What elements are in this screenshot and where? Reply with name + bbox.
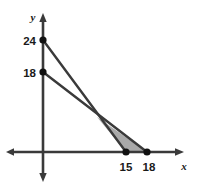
coordinate-plane-svg: 24 18 15 18 y x [0, 0, 202, 183]
x-tick-label-18: 18 [143, 161, 156, 173]
point-x-18 [143, 148, 150, 155]
y-tick-label-18: 18 [23, 67, 36, 79]
point-y-24 [39, 36, 46, 43]
x-axis-label: x [180, 160, 187, 172]
x-axis [6, 148, 184, 155]
x-tick-label-15: 15 [120, 161, 133, 173]
graph-figure: 24 18 15 18 y x [0, 0, 202, 183]
line-segment-2 [43, 72, 147, 152]
y-tick-label-24: 24 [23, 35, 36, 47]
point-x-15 [122, 148, 129, 155]
line-segment-1 [43, 40, 126, 152]
point-y-18 [39, 68, 46, 75]
y-axis-label: y [29, 11, 36, 23]
